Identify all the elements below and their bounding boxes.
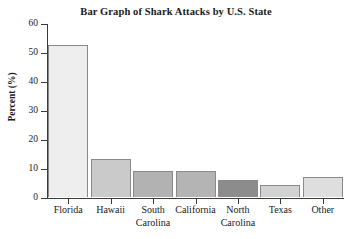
y-axis-tick: 0 <box>41 198 47 199</box>
y-axis-tick: 60 <box>41 24 47 25</box>
x-axis-tick-label: North Carolina <box>217 204 259 229</box>
y-axis-tick-label: 20 <box>29 133 39 146</box>
x-axis-tick-label: South Carolina <box>132 204 174 229</box>
bar <box>303 177 343 197</box>
y-axis-tick: 30 <box>41 111 47 112</box>
y-axis-tick-label: 60 <box>29 17 39 30</box>
y-axis-label: Percent (%) <box>7 62 17 132</box>
bar <box>176 171 216 197</box>
x-axis-tick-label: Other <box>302 204 344 217</box>
bar <box>218 180 258 197</box>
y-axis-tick-label: 30 <box>29 104 39 117</box>
y-axis-tick-label: 40 <box>29 75 39 88</box>
plot-area: 0102030405060 FloridaHawaiiSouth Carolin… <box>47 24 344 198</box>
y-axis-tick: 40 <box>41 82 47 83</box>
x-axis-tick-label: Florida <box>47 204 89 217</box>
y-axis-tick: 10 <box>41 169 47 170</box>
x-axis-tick-label: Texas <box>259 204 301 217</box>
x-axis-tick-label: Hawaii <box>89 204 131 217</box>
y-axis-tick: 50 <box>41 53 47 54</box>
bar <box>133 171 173 197</box>
y-axis-tick-label: 50 <box>29 46 39 59</box>
bar <box>91 159 131 197</box>
x-axis-tick-label: California <box>174 204 216 217</box>
bar <box>260 185 300 197</box>
bar-chart-figure: Bar Graph of Shark Attacks by U.S. State… <box>0 0 352 239</box>
chart-title: Bar Graph of Shark Attacks by U.S. State <box>0 6 352 18</box>
y-axis-tick-label: 10 <box>29 162 39 175</box>
y-axis-tick-label: 0 <box>33 191 38 204</box>
y-axis-tick: 20 <box>41 140 47 141</box>
bar <box>48 45 88 197</box>
